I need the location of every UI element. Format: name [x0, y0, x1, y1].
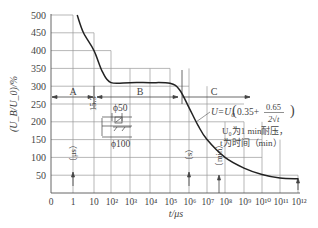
unit-s-label: （s）: [184, 144, 194, 165]
svg-text:): ): [290, 103, 295, 119]
x-tick-5: 10⁴: [145, 197, 159, 207]
y-tick-450: 450: [31, 27, 46, 38]
x-tick-4: 10³: [125, 197, 138, 207]
x-tick-7: 10⁶: [184, 197, 197, 207]
region-markers: [52, 70, 250, 108]
y-tick-100: 100: [31, 152, 46, 163]
x-tick-labels: 011010²10³10⁴10⁵10⁶10⁷10⁸10⁹10¹⁰10¹¹10¹²: [49, 197, 307, 207]
svg-text:0.35+: 0.35+: [237, 107, 259, 117]
x-axis-label: t/μs: [169, 208, 184, 219]
x-tick-11: 10¹⁰: [255, 197, 271, 207]
phi50-label: ϕ50: [113, 103, 128, 113]
y-tick-400: 400: [31, 45, 46, 56]
x-tick-13: 10¹²: [291, 197, 306, 207]
formula-leader: [196, 112, 210, 122]
x-tick-0: 0: [49, 197, 54, 207]
x-tick-1: 1: [71, 197, 76, 207]
dimension-label: 15.3: [88, 96, 98, 111]
breakdown-voltage-chart: 50100150200250300350400450500 011010²10³…: [0, 0, 318, 228]
x-tick-6: 10⁵: [165, 197, 178, 207]
y-tick-150: 150: [31, 134, 46, 145]
region-label-b: B: [137, 86, 144, 97]
x-tick-3: 10²: [106, 197, 119, 207]
phi100-label: ϕ100: [111, 139, 131, 149]
y-tick-300: 300: [31, 81, 46, 92]
x-tick-9: 10⁸: [220, 197, 233, 207]
y-tick-50: 50: [36, 170, 46, 181]
x-tick-12: 10¹¹: [273, 197, 288, 207]
note-line-2: t为时间（min）: [220, 137, 282, 148]
svg-text:2√t: 2√t: [268, 114, 280, 124]
x-tick-2: 10: [89, 197, 99, 207]
x-tick-10: 10⁹: [239, 197, 253, 207]
region-label-a: A: [69, 86, 77, 97]
x-tick-8: 10⁷: [202, 197, 215, 207]
unit-us-label: （μs）: [68, 140, 78, 166]
y-tick-labels: 50100150200250300350400450500: [31, 10, 46, 181]
region-label-c: C: [211, 86, 218, 97]
y-tick-250: 250: [31, 99, 46, 110]
y-tick-350: 350: [31, 63, 46, 74]
formula: U=U0 ( 0.35+ 0.65 2√t ): [211, 102, 295, 124]
note-line-1: U₀为1 min耐压，: [222, 125, 288, 136]
y-axis-label: (U_B/U_0)/%: [8, 76, 20, 132]
electrode-diagram: [102, 113, 132, 137]
svg-text:0.65: 0.65: [266, 102, 281, 112]
y-tick-200: 200: [31, 116, 46, 127]
y-tick-500: 500: [31, 10, 46, 21]
